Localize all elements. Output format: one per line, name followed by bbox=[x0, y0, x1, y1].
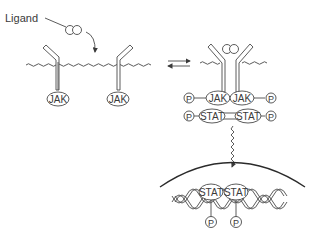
nuclear-stat-dimer: STAT STAT P P bbox=[199, 184, 248, 228]
jak-row: P JAK JAK P bbox=[184, 91, 276, 105]
bound-ligand bbox=[223, 45, 239, 54]
phospho-label: P bbox=[186, 94, 192, 104]
jak-label: JAK bbox=[109, 94, 128, 105]
stat-label: STAT bbox=[236, 111, 260, 122]
stat-label: STAT bbox=[199, 187, 223, 198]
phospho-label: P bbox=[268, 112, 274, 122]
jak-stat-diagram: Ligand JAK JAK P bbox=[0, 0, 315, 234]
left-receptor-1: JAK bbox=[43, 45, 69, 106]
equilibrium-arrows-icon bbox=[168, 61, 190, 66]
jak-label: JAK bbox=[209, 93, 228, 104]
stat-label: STAT bbox=[224, 187, 248, 198]
jak-label: JAK bbox=[49, 94, 68, 105]
stat-label: STAT bbox=[200, 111, 224, 122]
receptor-dimer bbox=[208, 44, 253, 92]
phospho-label: P bbox=[186, 112, 192, 122]
jak-label: JAK bbox=[233, 93, 252, 104]
left-receptor-2: JAK bbox=[107, 45, 133, 106]
translocation-arrow bbox=[231, 126, 234, 167]
right-membrane-right bbox=[242, 62, 267, 65]
left-membrane bbox=[26, 64, 151, 67]
phospho-label: P bbox=[268, 94, 274, 104]
ligand-molecule bbox=[66, 26, 82, 35]
ligand-binding-arrow bbox=[86, 32, 95, 52]
phospho-label: P bbox=[208, 218, 214, 228]
ligand-label: Ligand bbox=[5, 12, 38, 24]
phospho-label: P bbox=[233, 218, 239, 228]
ligand-pointer-line bbox=[45, 18, 66, 27]
right-membrane-left bbox=[200, 62, 220, 65]
stat-row: P STAT STAT P bbox=[184, 109, 276, 123]
